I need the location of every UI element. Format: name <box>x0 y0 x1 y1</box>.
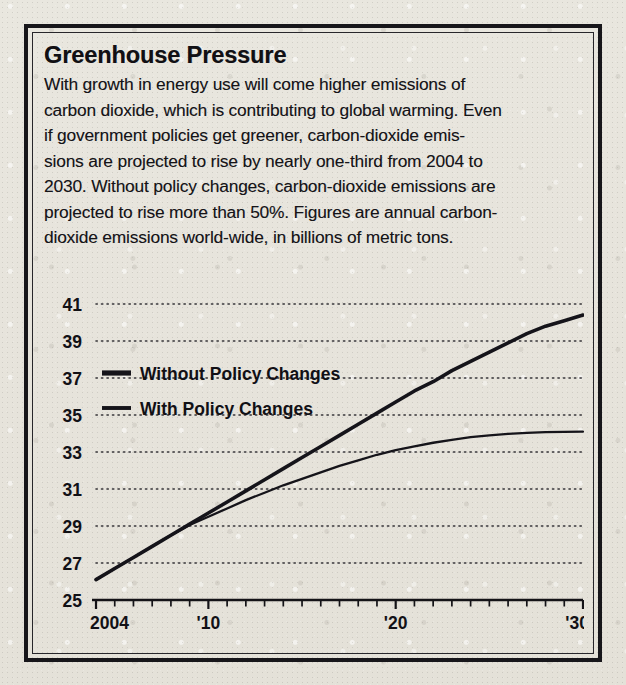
series-line <box>96 315 583 580</box>
x-axis-tick-label: '10 <box>197 613 221 633</box>
deck-line: sions are projected to rise by nearly on… <box>44 149 576 175</box>
x-axis-tick-label: 2004 <box>90 613 129 633</box>
chart-legend: Without Policy ChangesWith Policy Change… <box>102 364 340 419</box>
deck-line: dioxide emissions world-wide, in billion… <box>44 225 576 251</box>
chart-x-axis-labels: 2004'10'20'30 <box>90 613 584 633</box>
x-axis-tick-label: '20 <box>384 613 408 633</box>
y-axis-tick-label: 37 <box>63 369 82 389</box>
y-axis-tick-label: 35 <box>63 406 83 426</box>
y-axis-tick-label: 29 <box>63 517 83 537</box>
deck-paragraph: With growth in energy use will come high… <box>44 72 576 251</box>
chart-canvas: 413937353331292725 2004'10'20'30 Without… <box>44 282 584 642</box>
y-axis-tick-label: 39 <box>63 332 83 352</box>
deck-line: projected to rise more than 50%. Figures… <box>44 200 576 226</box>
y-axis-tick-label: 31 <box>63 480 83 500</box>
deck-line: if government policies get greener, carb… <box>44 123 576 149</box>
series-line <box>96 432 583 580</box>
newsprint-page: Greenhouse Pressure With growth in energ… <box>0 0 626 685</box>
chart-y-axis-labels: 413937353331292725 <box>63 295 83 611</box>
deck-line: carbon dioxide, which is contributing to… <box>44 98 576 124</box>
graphic-content: Greenhouse Pressure With growth in energ… <box>44 40 584 650</box>
deck-line: 2030. Without policy changes, carbon-dio… <box>44 174 576 200</box>
y-axis-tick-label: 25 <box>63 591 83 611</box>
legend-label: With Policy Changes <box>140 399 313 419</box>
x-axis-tick-label: '30 <box>565 613 584 633</box>
legend-label: Without Policy Changes <box>140 364 340 384</box>
chart-series-group <box>96 315 583 580</box>
page-title: Greenhouse Pressure <box>44 40 584 70</box>
y-axis-tick-label: 27 <box>63 554 82 574</box>
chart-x-axis-ticks <box>96 600 583 609</box>
y-axis-tick-label: 33 <box>63 443 83 463</box>
y-axis-tick-label: 41 <box>63 295 83 315</box>
deck-line: With growth in energy use will come high… <box>44 72 576 98</box>
line-chart: 413937353331292725 2004'10'20'30 Without… <box>44 282 584 642</box>
